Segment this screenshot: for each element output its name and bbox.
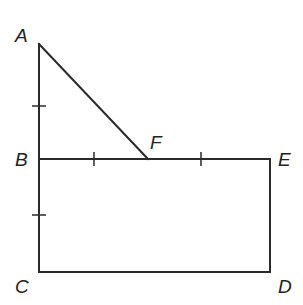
geometry-diagram: A B C D E F [0,0,303,305]
label-point-c: C [15,276,29,297]
label-point-e: E [278,149,291,170]
label-point-f: F [150,132,163,153]
segment-af [39,44,148,159]
label-point-d: D [278,276,292,297]
label-point-a: A [14,25,28,46]
label-point-b: B [15,149,28,170]
